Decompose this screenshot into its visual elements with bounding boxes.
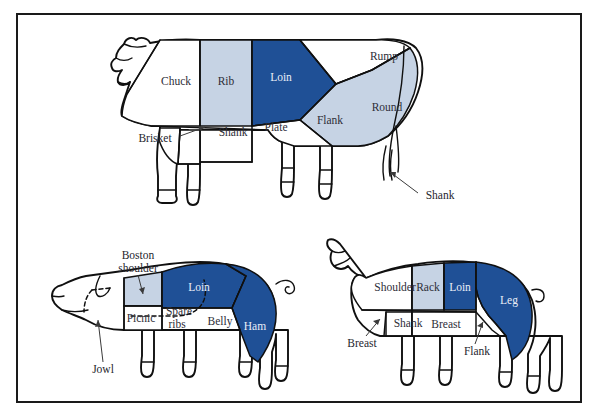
pork-label-boston-shoulder-2: shoulder (118, 262, 158, 274)
pork-tail (276, 280, 294, 293)
pork-label-loin: Loin (188, 281, 210, 293)
beef-label-brisket: Brisket (138, 132, 172, 144)
lamb-label-breast-mid: Breast (431, 318, 461, 330)
beef-label-shank-front: Shank (219, 126, 248, 138)
beef-label-loin: Loin (270, 71, 292, 83)
lamb-label-leg: Leg (500, 294, 518, 307)
lamb-label-flank: Flank (464, 345, 490, 357)
pork-diagram: Loin Ham Picnic Spare ribs Belly Boston … (52, 249, 294, 389)
lamb-tail (532, 289, 544, 302)
lamb-label-rack: Rack (416, 281, 440, 293)
pork-label-jowl: Jowl (92, 363, 114, 375)
beef-label-round: Round (372, 101, 403, 113)
figure-page: Chuck Rib Loin Rump Round Flank Plate Sh… (0, 0, 600, 420)
beef-label-flank: Flank (317, 114, 343, 126)
meat-cuts-diagram: Chuck Rib Loin Rump Round Flank Plate Sh… (0, 0, 600, 420)
lamb-label-shoulder: Shoulder (374, 281, 416, 293)
pork-label-boston-shoulder-1: Boston (122, 249, 155, 261)
beef-label-chuck: Chuck (161, 75, 191, 87)
beef-label-rump: Rump (370, 50, 398, 63)
beef-label-shank-rear: Shank (426, 189, 455, 201)
pork-label-spare-ribs-1: Spare (166, 305, 192, 318)
pork-label-belly: Belly (208, 315, 233, 328)
beef-label-plate: Plate (265, 121, 288, 133)
lamb-diagram: Shoulder Rack Loin Leg Shank Breast Brea… (327, 239, 562, 393)
beef-label-rib: Rib (218, 75, 235, 87)
beef-diagram: Chuck Rib Loin Rump Round Flank Plate Sh… (111, 38, 454, 205)
pork-snout-detail (52, 296, 64, 297)
pork-label-picnic: Picnic (127, 312, 156, 324)
pork-label-spare-ribs-2: ribs (168, 318, 186, 330)
lamb-label-breast-front: Breast (347, 337, 377, 349)
lamb-label-loin: Loin (449, 281, 471, 293)
lamb-label-shank: Shank (394, 317, 423, 329)
beef-tail-2 (396, 126, 399, 172)
pork-label-ham: Ham (244, 320, 266, 332)
